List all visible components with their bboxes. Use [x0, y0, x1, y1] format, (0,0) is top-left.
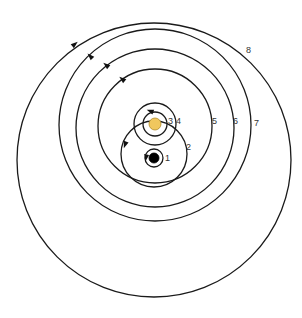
earth-body — [149, 153, 159, 163]
orbit-label-7: 7 — [254, 118, 259, 128]
arrow-head-icon — [71, 40, 80, 48]
direction-arrows — [71, 40, 154, 162]
orbit-labels: 12345678 — [165, 45, 259, 163]
sun-body — [149, 118, 161, 130]
celestial-bodies — [149, 118, 161, 163]
orbit-diagram: 12345678 — [0, 0, 302, 318]
orbit-label-2: 2 — [186, 142, 191, 152]
orbit-label-4: 4 — [176, 116, 181, 126]
orbit-label-5: 5 — [212, 116, 217, 126]
orbit-label-3: 3 — [168, 116, 173, 126]
orbit-label-1: 1 — [165, 153, 170, 163]
orbit-label-6: 6 — [233, 116, 238, 126]
arrow-head-icon — [86, 52, 94, 60]
orbit-label-8: 8 — [246, 45, 251, 55]
